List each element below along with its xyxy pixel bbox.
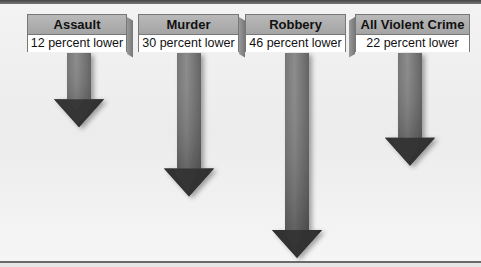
panel-value: 22 percent lower <box>356 35 469 52</box>
arrow-all-violent-crime <box>385 53 435 166</box>
arrow-head <box>385 138 435 166</box>
panel-title: Robbery <box>246 15 345 35</box>
arrow-murder <box>164 53 214 197</box>
panel-title: All Violent Crime <box>356 15 469 35</box>
arrow-head <box>54 99 104 127</box>
label-box: All Violent Crime 22 percent lower <box>355 14 470 52</box>
panel-assault: Assault 12 percent lower <box>27 14 127 52</box>
arrow-robbery <box>272 53 322 258</box>
arrow-head <box>272 230 322 258</box>
arrow-assault <box>54 53 104 127</box>
panel-title: Murder <box>139 15 238 35</box>
label-box: Robbery 46 percent lower <box>245 14 346 52</box>
panel-robbery: Robbery 46 percent lower <box>245 14 346 52</box>
panel-value: 30 percent lower <box>139 35 238 52</box>
label-box: Assault 12 percent lower <box>27 14 127 52</box>
panel-murder: Murder 30 percent lower <box>138 14 239 52</box>
bottom-band <box>0 263 481 267</box>
panel-all-violent-crime: All Violent Crime 22 percent lower <box>355 14 470 52</box>
panel-value: 46 percent lower <box>246 35 345 52</box>
box-side <box>127 17 133 57</box>
arrow-shade <box>272 53 322 258</box>
panel-title: Assault <box>28 15 126 35</box>
panel-value: 12 percent lower <box>28 35 126 52</box>
arrow-head <box>164 169 214 197</box>
label-box: Murder 30 percent lower <box>138 14 239 52</box>
